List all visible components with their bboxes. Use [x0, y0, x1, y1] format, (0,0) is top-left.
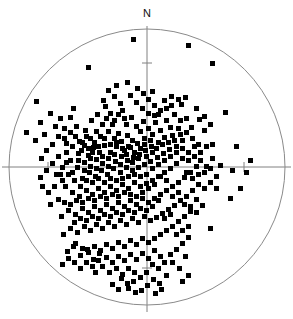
data-point [108, 214, 113, 219]
data-point [120, 212, 125, 217]
data-point [164, 118, 169, 123]
data-point [56, 197, 61, 202]
data-point [94, 166, 99, 171]
data-point [80, 246, 85, 251]
data-point [120, 182, 125, 187]
data-point [135, 141, 140, 146]
data-point [74, 198, 79, 203]
data-point [218, 163, 223, 168]
data-point [132, 270, 137, 275]
data-point [56, 154, 61, 159]
data-point [119, 139, 124, 144]
data-point [119, 154, 124, 159]
data-point [126, 208, 131, 213]
data-point [174, 161, 179, 166]
data-point [168, 125, 173, 130]
data-point [153, 291, 158, 296]
data-point [158, 174, 163, 179]
data-point [76, 151, 81, 156]
stereonet-figure: N [0, 0, 293, 319]
data-point [166, 140, 171, 145]
data-point [95, 112, 100, 117]
data-point [168, 212, 173, 217]
data-point [188, 209, 193, 214]
data-point [61, 232, 66, 237]
data-point [146, 111, 151, 116]
stereonet-plot-canvas [0, 0, 293, 319]
data-point [60, 165, 65, 170]
data-point [202, 114, 207, 119]
data-point [102, 212, 107, 217]
data-point [140, 190, 145, 195]
data-point [172, 138, 177, 143]
data-point [174, 232, 179, 237]
data-point [182, 214, 187, 219]
data-point [228, 196, 233, 201]
data-point [116, 254, 121, 259]
data-point [114, 210, 119, 215]
data-point [80, 206, 85, 211]
data-point [141, 91, 146, 96]
data-point [116, 131, 121, 136]
data-point [116, 194, 121, 199]
data-point [196, 142, 201, 147]
data-point [170, 194, 175, 199]
data-point [134, 124, 139, 129]
data-point [210, 61, 215, 66]
data-point [112, 224, 117, 229]
data-point [151, 277, 156, 282]
data-point [144, 270, 149, 275]
data-point [50, 142, 55, 147]
data-point [128, 93, 133, 98]
data-point [180, 146, 185, 151]
data-point [135, 86, 140, 91]
data-point [150, 89, 155, 94]
data-point [156, 162, 161, 167]
data-point [184, 194, 189, 199]
data-point [180, 228, 185, 233]
data-point [126, 144, 131, 149]
data-point [131, 279, 136, 284]
data-point [174, 150, 179, 155]
data-point [134, 100, 139, 105]
data-point [70, 190, 75, 195]
data-point [208, 180, 213, 185]
data-point [100, 122, 105, 127]
data-point [166, 207, 171, 212]
data-point [182, 175, 187, 180]
data-point [138, 174, 143, 179]
data-point [144, 181, 149, 186]
data-point [100, 226, 105, 231]
data-point [92, 204, 97, 209]
data-point [62, 126, 67, 131]
data-point [162, 158, 167, 163]
data-point [104, 202, 109, 207]
data-point [194, 164, 199, 169]
data-point [52, 184, 57, 189]
data-point [136, 156, 141, 161]
data-point [90, 214, 95, 219]
data-point [70, 144, 75, 149]
data-point [100, 264, 105, 269]
data-point [101, 98, 106, 103]
data-point [230, 168, 235, 173]
data-point [174, 247, 179, 252]
data-point [80, 200, 85, 205]
data-point [140, 251, 145, 256]
data-point [142, 162, 147, 167]
data-point [108, 184, 113, 189]
data-point [106, 164, 111, 169]
data-point [146, 256, 151, 261]
data-point [75, 230, 80, 235]
data-point [129, 115, 134, 120]
data-point [50, 161, 55, 166]
data-point [214, 186, 219, 191]
data-point [124, 122, 129, 127]
data-point [60, 178, 65, 183]
data-point [126, 174, 131, 179]
data-point [74, 124, 79, 129]
data-point [140, 196, 145, 201]
data-point [68, 115, 73, 120]
data-point [176, 219, 181, 224]
data-point [53, 124, 58, 129]
